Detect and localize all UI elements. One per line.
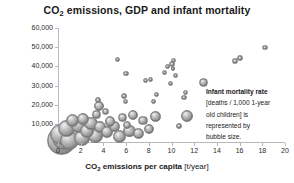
annotation-heading: Infant mortality rate [206,86,292,97]
y-tick-label: 40,000 [3,62,53,69]
annotation-line-5: bubble size. [206,131,292,142]
x-tick-label: 18 [252,147,272,154]
data-bubble [138,116,148,126]
bubble-chart: CO2 emissions, GDP and infant mortality … [0,0,294,183]
data-bubble [262,45,268,51]
x-tick-mark [285,143,286,146]
y-tick-label: 20,000 [3,101,53,108]
x-tick-label: 6 [116,147,136,154]
x-tick-mark [194,143,195,146]
data-bubble [183,90,188,95]
x-tick-label: 2 [71,147,91,154]
data-bubble [151,99,156,104]
chart-title: CO2 emissions, GDP and infant mortality [0,4,294,16]
x-tick-label: 16 [230,147,250,154]
x-tick-label: 12 [184,147,204,154]
x-tick-label: 4 [93,147,113,154]
data-bubble [133,128,144,139]
data-bubble [154,92,159,97]
x-tick-mark [240,143,241,146]
data-bubble [173,73,178,78]
bubble-size-annotation: Infant mortality rate [deaths / 1,000 1-… [206,86,292,143]
data-bubble [176,123,182,129]
y-tick-label: 60,000 [3,24,53,31]
x-tick-label: 8 [139,147,159,154]
data-bubble [171,66,176,71]
chart-title-rest: emissions, GDP and infant mortality [64,4,251,16]
x-tick-mark [81,143,82,146]
data-bubble [105,116,115,126]
data-bubble [150,111,160,121]
data-bubble [123,121,131,129]
x-tick-mark [126,143,127,146]
annotation-line-3: old children] is [206,109,292,120]
annotation-line-2: [deaths / 1,000 1-year [206,97,292,108]
x-tick-mark [172,143,173,146]
x-tick-mark [262,143,263,146]
data-bubble [232,58,237,63]
chart-title-prefix: CO [44,4,60,16]
data-bubble [121,93,127,99]
annotation-line-4: represented by [206,120,292,131]
data-bubble [123,71,129,77]
data-bubble [181,110,193,122]
x-tick-mark [103,143,104,146]
data-bubble [162,70,168,76]
data-bubble [168,81,173,86]
x-tick-mark [217,143,218,146]
data-bubble [171,58,176,63]
x-tick-label: 0 [48,147,68,154]
y-tick-label: 30,000 [3,82,53,89]
x-axis-title-subscript: 2 [97,166,100,172]
y-tick-label: 10,000 [3,120,53,127]
data-bubble [123,99,128,104]
x-axis-title-prefix: CO [85,162,97,171]
x-tick-label: 14 [207,147,227,154]
y-tick-label: 50,000 [3,43,53,50]
data-bubble [148,77,153,82]
data-bubble [237,55,243,61]
data-bubble [115,57,120,62]
data-bubble [165,64,170,69]
data-bubble [102,108,109,115]
x-tick-mark [149,143,150,146]
data-bubble [92,110,100,118]
x-tick-label: 10 [162,147,182,154]
x-tick-mark [58,143,59,146]
data-bubble [77,113,89,125]
x-axis-title: CO2 emissions per capita [t/year] [0,162,294,171]
data-bubble [181,95,187,101]
chart-title-subscript: 2 [60,9,64,18]
data-bubble [144,124,154,134]
x-tick-label: 20 [275,147,294,154]
x-axis-title-rest: emissions per capita [101,162,185,171]
x-axis-title-unit: [t/year] [184,162,208,171]
data-bubble [128,110,138,120]
